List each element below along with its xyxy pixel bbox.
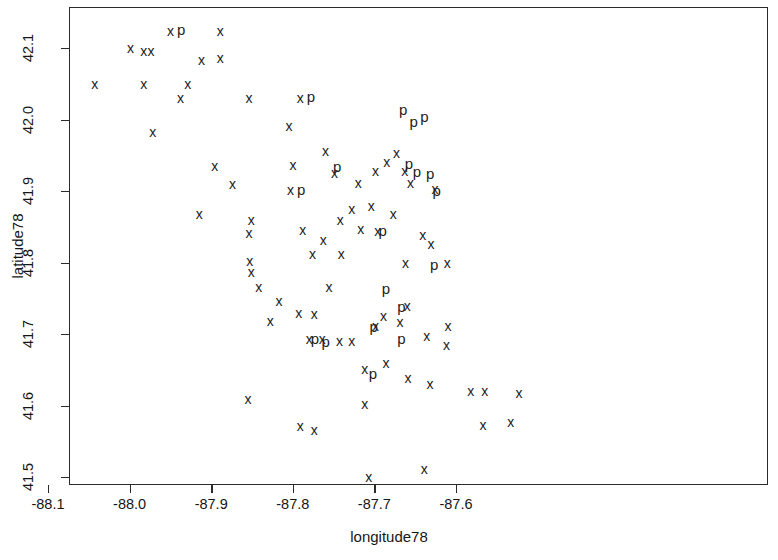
x-axis-tick-label: -88.0 [113,496,146,512]
data-points-layer: xxxxxxxxxxxxxxxxxxxxxxxxxxxxxxxxxxxxxxxx… [70,8,767,484]
data-point-x: x [255,280,262,294]
data-point-p: p [432,182,440,197]
data-point-p: p [413,163,421,178]
x-axis-tick [374,485,375,493]
x-axis-tick [456,485,457,493]
data-point-x: x [348,202,355,216]
data-point-p: p [379,222,387,237]
data-point-x: x [297,91,304,105]
data-point-x: x [289,158,296,172]
data-point-x: x [229,177,236,191]
x-axis-tick-label: -88.1 [31,496,64,512]
data-point-x: x [390,207,397,221]
data-point-x: x [427,237,434,251]
data-point-x: x [320,233,327,247]
data-point-x: x [287,183,294,197]
y-axis-tick [61,191,69,192]
data-point-x: x [211,159,218,173]
y-axis-tick-label: 41.5 [20,463,36,491]
data-point-x: x [361,362,368,376]
data-point-x: x [325,280,332,294]
data-point-x: x [467,384,474,398]
data-point-x: x [419,228,426,242]
data-point-x: x [421,462,428,476]
data-point-x: x [140,77,147,91]
data-point-x: x [402,256,409,270]
data-point-x: x [311,423,318,437]
data-point-x: x [127,41,134,55]
data-point-x: x [148,44,155,58]
data-point-x: x [507,415,514,429]
data-point-x: x [217,24,224,38]
data-point-x: x [338,247,345,261]
data-point-x: x [383,155,390,169]
data-point-x: x [380,309,387,323]
y-axis-tick [61,120,69,121]
y-axis-tick-label: 42.0 [20,105,36,133]
data-point-x: x [184,77,191,91]
data-point-p: p [369,365,377,380]
data-point-p: p [399,102,407,117]
data-point-x: x [267,314,274,328]
x-axis-tick [211,485,212,493]
data-point-x: x [480,418,487,432]
data-point-x: x [423,329,430,343]
data-point-p: p [307,89,315,104]
data-point-x: x [372,164,379,178]
data-point-x: x [276,294,283,308]
y-axis-tick [61,263,69,264]
data-point-x: x [337,213,344,227]
x-axis-tick [130,485,131,493]
data-point-p: p [426,165,434,180]
x-axis-tick-label: -87.7 [358,496,391,512]
data-point-x: x [196,207,203,221]
x-axis-tick [48,485,49,493]
data-point-x: x [365,470,372,484]
data-point-x: x [443,338,450,352]
data-point-x: x [311,307,318,321]
data-point-p: p [397,330,405,345]
data-point-p: p [420,109,428,124]
data-point-x: x [357,222,364,236]
y-axis-tick-label: 42.1 [20,34,36,62]
data-point-x: x [516,386,523,400]
data-point-x: x [361,397,368,411]
y-axis-title: latitude78 [9,213,26,278]
data-point-x: x [177,91,184,105]
data-point-x: x [217,51,224,65]
y-axis-tick [61,334,69,335]
data-point-x: x [299,223,306,237]
x-axis-tick [293,485,294,493]
data-point-x: x [295,306,302,320]
data-point-p: p [405,155,413,170]
data-point-x: x [245,91,252,105]
data-point-x: x [198,53,205,67]
y-axis-tick [61,477,69,478]
data-point-p: p [370,319,378,334]
y-axis-tick-label: 41.6 [20,391,36,419]
data-point-p: p [297,182,305,197]
data-point-x: x [248,265,255,279]
data-point-x: x [167,24,174,38]
data-point-x: x [445,319,452,333]
data-point-x: x [368,199,375,213]
data-point-x: x [348,334,355,348]
data-point-x: x [245,226,252,240]
data-point-x: x [393,146,400,160]
data-point-p: p [410,114,418,129]
data-point-p: p [333,158,341,173]
data-point-x: x [322,144,329,158]
data-point-x: x [405,371,412,385]
y-axis-tick [61,406,69,407]
plot-area-frame: xxxxxxxxxxxxxxxxxxxxxxxxxxxxxxxxxxxxxxxx… [69,7,768,485]
y-axis-tick [61,48,69,49]
data-point-x: x [245,392,252,406]
data-point-x: x [297,419,304,433]
data-point-p: p [311,330,319,345]
scatter-plot-figure: xxxxxxxxxxxxxxxxxxxxxxxxxxxxxxxxxxxxxxxx… [0,0,778,560]
data-point-x: x [149,125,156,139]
data-point-p: p [397,298,405,313]
data-point-x: x [336,334,343,348]
x-axis-tick-label: -87.8 [276,496,309,512]
data-point-x: x [444,256,451,270]
